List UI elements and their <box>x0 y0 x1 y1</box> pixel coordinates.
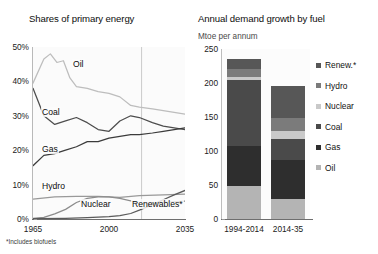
legend-item[interactable]: Coal <box>316 117 376 138</box>
bar-segment-renew <box>271 86 305 118</box>
left-chart-panel: Shares of primary energy 50%40%30%20%10%… <box>0 0 192 254</box>
stacked-bar <box>271 86 305 219</box>
legend-label: Coal <box>325 122 342 132</box>
bar-segment-coal <box>227 80 261 147</box>
left-x-tick: 1965 <box>13 224 53 234</box>
left-y-tick-mark <box>34 219 37 220</box>
legend-label: Renew.* <box>325 60 356 70</box>
legend-item[interactable]: Oil <box>316 158 376 179</box>
left-y-tick: 20% <box>0 145 29 155</box>
right-x-axis-line <box>221 219 313 220</box>
left-x-axis-line <box>32 219 186 220</box>
left-y-tick: 10% <box>0 180 29 190</box>
bar-segment-nuclear <box>227 77 261 80</box>
legend-item[interactable]: Hydro <box>316 76 376 97</box>
right-chart-subtitle: Mtoe per annum <box>198 32 258 41</box>
left-y-tick: 30% <box>0 111 29 121</box>
bar-segment-oil <box>227 186 261 219</box>
series-label-hydro: Hydro <box>41 181 66 191</box>
right-chart-title: Annual demand growth by fuel <box>198 13 325 24</box>
legend-swatch-icon <box>316 83 321 88</box>
right-y-tick-mark <box>222 219 225 220</box>
bar-segment-coal <box>271 139 305 160</box>
series-label-oil: Oil <box>72 59 85 69</box>
left-x-tick: 2000 <box>89 224 129 234</box>
left-y-tick: 40% <box>0 76 29 86</box>
legend-label: Nuclear <box>325 101 354 111</box>
bar-segment-renew <box>227 59 261 69</box>
legend-label: Gas <box>325 142 340 152</box>
legend-swatch-icon <box>316 104 321 109</box>
bar-segment-gas <box>271 160 305 199</box>
left-y-tick: 50% <box>0 42 29 52</box>
right-chart-legend: Renew.*HydroNuclearCoalGasOil <box>316 55 376 178</box>
left-plot-area <box>33 47 185 219</box>
right-y-tick: 250 <box>192 44 218 54</box>
right-y-tick: 50 <box>192 180 218 190</box>
legend-label: Hydro <box>325 81 347 91</box>
bar-segment-gas <box>227 146 261 186</box>
legend-swatch-icon <box>316 145 321 150</box>
legend-swatch-icon <box>316 63 321 68</box>
right-x-tick: 2014-35 <box>262 224 314 234</box>
legend-item[interactable]: Nuclear <box>316 96 376 117</box>
bar-segment-oil <box>271 199 305 219</box>
legend-swatch-icon <box>316 124 321 129</box>
series-label-nuclear: Nuclear <box>80 199 112 209</box>
left-chart-footnote: *Includes biofuels <box>6 238 56 245</box>
legend-item[interactable]: Renew.* <box>316 55 376 76</box>
series-label-gas: Gas <box>41 144 59 154</box>
bar-segment-hydro <box>271 118 305 131</box>
left-y-tick: 0% <box>0 214 29 224</box>
bar-segment-hydro <box>227 69 261 76</box>
figure-root: Shares of primary energy 50%40%30%20%10%… <box>0 0 378 254</box>
left-chart-title: Shares of primary energy <box>29 13 134 24</box>
bar-segment-nuclear <box>271 131 305 138</box>
right-chart-panel: Annual demand growth by fuel Mtoe per an… <box>192 0 378 254</box>
right-y-tick: 100 <box>192 146 218 156</box>
legend-label: Oil <box>325 163 335 173</box>
stacked-bar <box>227 59 261 219</box>
right-y-tick: 0 <box>192 214 218 224</box>
right-plot-area <box>222 49 310 219</box>
line-series-oil <box>33 54 185 114</box>
left-line-series-svg <box>33 47 185 219</box>
legend-swatch-icon <box>316 165 321 170</box>
legend-item[interactable]: Gas <box>316 137 376 158</box>
right-y-tick: 200 <box>192 78 218 88</box>
series-label-coal: Coal <box>41 107 61 117</box>
series-label-renewables: Renewables* <box>131 199 184 209</box>
right-y-tick: 150 <box>192 112 218 122</box>
